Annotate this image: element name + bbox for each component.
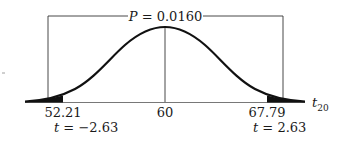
left-t-label: t = −2.63 xyxy=(54,120,118,135)
right-bound-value: 67.79 xyxy=(248,105,285,120)
t-distribution-chart: P = 0.0160 t20 52.21 60 67.79 t = −2.63 … xyxy=(0,0,337,144)
axis-variable-label: t20 xyxy=(312,95,329,113)
p-value-label: P = 0.0160 xyxy=(128,9,202,24)
center-value: 60 xyxy=(157,105,174,120)
right-t-label: t = 2.63 xyxy=(253,120,306,135)
left-bound-value: 52.21 xyxy=(44,105,81,120)
p-value-bracket xyxy=(48,16,283,101)
